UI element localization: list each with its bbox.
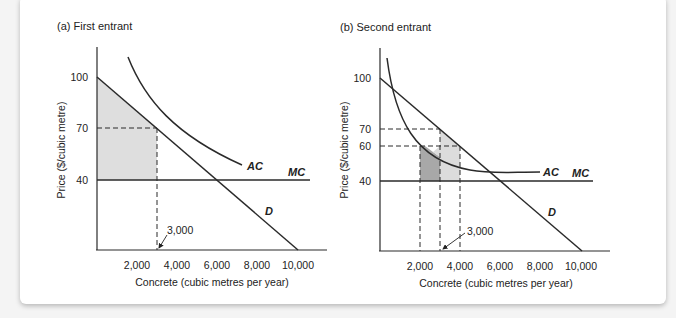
panel-b-xtick: 8,000 <box>527 260 553 272</box>
panel-a-ylabel: Price ($/cubic metre) <box>55 102 67 199</box>
panel-a-xtick: 8,000 <box>244 259 270 271</box>
figure-svg: (a) First entrant AC MC D 3,000 100 70 4… <box>0 0 676 318</box>
panel-a-q-label: 3,000 <box>167 224 193 236</box>
panel-a-d-label: D <box>265 205 273 217</box>
panel-a-mc-label: MC <box>288 166 306 178</box>
panel-a-xtick: 6,000 <box>204 259 230 271</box>
panel-a-xtick: 4,000 <box>164 259 190 271</box>
panel-a-title: (a) First entrant <box>57 20 132 32</box>
panel-b-xtick: 2,000 <box>407 260 433 272</box>
panel-b-ytick: 60 <box>359 140 371 152</box>
panel-a-xlabel: Concrete (cubic metres per year) <box>135 276 288 288</box>
panel-a: (a) First entrant AC MC D 3,000 100 70 4… <box>55 20 327 288</box>
panel-b-d-label: D <box>548 206 556 218</box>
panel-b-ytick: 70 <box>359 123 371 135</box>
panel-b-q-label: 3,000 <box>467 225 493 237</box>
panel-b-xtick: 10,000 <box>565 260 597 272</box>
panel-b-xlabel: Concrete (cubic metres per year) <box>419 277 572 289</box>
panel-a-ytick: 40 <box>76 174 88 186</box>
panel-a-ytick: 100 <box>70 71 88 83</box>
panel-b-arrow <box>443 233 465 249</box>
panel-b-title: (b) Second entrant <box>340 21 431 33</box>
panel-a-xtick: 2,000 <box>124 259 150 271</box>
panel-b-ac-label: AC <box>542 166 560 178</box>
panel-b-ytick: 40 <box>359 175 371 187</box>
panel-b-ylabel: Price ($/cubic metre) <box>338 102 350 199</box>
panel-b-ytick: 100 <box>353 72 371 84</box>
panel-a-xtick: 10,000 <box>282 259 314 271</box>
panel-a-arrow <box>159 235 167 248</box>
panel-b-xtick: 6,000 <box>487 260 513 272</box>
panel-b: (b) Second entrant AC MC D 3,000 100 70 … <box>338 21 610 289</box>
panel-a-ac-label: AC <box>246 160 264 172</box>
panel-b-ac-curve <box>387 58 540 173</box>
panel-b-mc-label: MC <box>572 167 590 179</box>
panel-b-xtick: 4,000 <box>447 260 473 272</box>
panel-a-ytick: 70 <box>76 122 88 134</box>
